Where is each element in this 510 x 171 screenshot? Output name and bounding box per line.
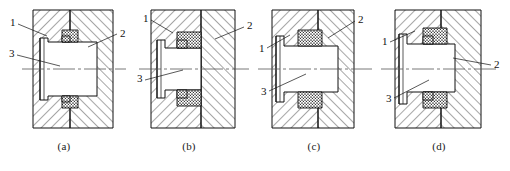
panel-caption-a: (a) xyxy=(0,140,128,152)
callout-label-2: 2 xyxy=(358,13,364,25)
seal-lower-step xyxy=(423,92,433,100)
callout-label-3: 3 xyxy=(261,85,267,97)
seal-lower xyxy=(298,92,322,108)
panel-caption-d: (d) xyxy=(375,140,503,152)
seal-lower-step xyxy=(62,96,70,102)
figure-panel-a: 1 2 3 (a) xyxy=(0,0,128,171)
callout-label-2: 2 xyxy=(494,58,500,70)
callout-label-3: 3 xyxy=(386,92,392,104)
section-drawing-a: 1 2 3 xyxy=(0,0,128,140)
section-drawing-d: 1 2 3 xyxy=(375,0,503,140)
figure-row: 1 2 3 (a) xyxy=(0,0,510,171)
callout-label-1: 1 xyxy=(143,12,149,24)
callout-label-3: 3 xyxy=(9,47,15,59)
panel-caption-b: (b) xyxy=(125,140,253,152)
seal-upper xyxy=(298,30,322,46)
seal-upper-step xyxy=(62,36,70,42)
seal-upper-step xyxy=(177,40,187,48)
section-drawing-c: 1 2 3 xyxy=(250,0,378,140)
figure-panel-c: 1 2 3 (c) xyxy=(250,0,378,171)
figure-panel-d: 1 2 3 (d) xyxy=(375,0,503,171)
callout-label-1: 1 xyxy=(382,35,388,47)
section-drawing-b: 1 2 3 xyxy=(125,0,253,140)
callout-label-3: 3 xyxy=(137,72,143,84)
seal-lower-step xyxy=(177,90,187,98)
callout-label-1: 1 xyxy=(259,42,265,54)
panel-caption-c: (c) xyxy=(250,140,378,152)
seal-upper-step xyxy=(423,36,433,44)
figure-panel-b: 1 2 3 (b) xyxy=(125,0,253,171)
callout-label-1: 1 xyxy=(10,16,16,28)
